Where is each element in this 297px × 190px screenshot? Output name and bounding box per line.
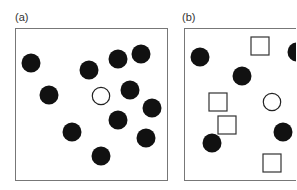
square-shape <box>263 154 281 172</box>
filled-circle-shape <box>22 54 41 73</box>
filled-circle-shape <box>40 86 59 105</box>
filled-circle-shape <box>137 129 156 148</box>
filled-circle-shape <box>132 45 151 64</box>
filled-circle-shape <box>63 123 82 142</box>
filled-circle-shape <box>143 99 162 118</box>
filled-circle-shape <box>109 50 128 69</box>
filled-circle-shape <box>109 111 128 130</box>
filled-circle-shape <box>288 43 297 62</box>
filled-circle-shape <box>121 81 140 100</box>
square-shape <box>251 37 269 55</box>
shapes-layer <box>0 0 296 190</box>
filled-circle-shape <box>233 67 252 86</box>
hollow-circle-shape <box>263 93 280 110</box>
filled-circle-shape <box>191 48 210 67</box>
filled-circle-shape <box>92 147 111 166</box>
square-shape <box>218 116 236 134</box>
filled-circle-shape <box>274 123 293 142</box>
hollow-circle-shape <box>92 87 109 104</box>
filled-circle-shape <box>80 61 99 80</box>
filled-circle-shape <box>203 134 222 153</box>
square-shape <box>209 93 227 111</box>
